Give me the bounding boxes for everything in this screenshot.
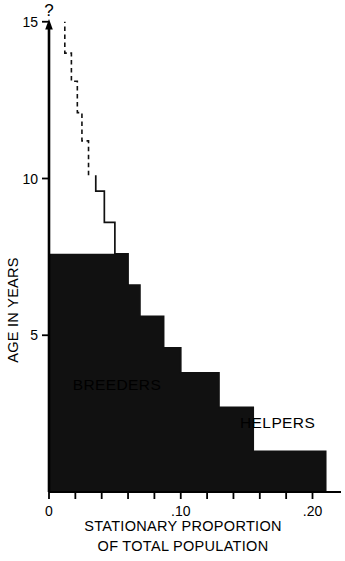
series-label-helpers: HELPERS: [240, 414, 315, 431]
series-label-breeders: BREEDERS: [73, 376, 161, 393]
y-axis-tick-label: 15: [22, 14, 38, 30]
y-axis-tick-label: 5: [30, 327, 38, 343]
x-axis-tick-label: 0: [45, 503, 53, 519]
uncertainty-question-mark: ?: [44, 1, 53, 20]
y-axis-tick-label: 10: [22, 171, 38, 187]
chart-figure: 51015 0.10.20 ? BREEDERSHELPERS STATIONA…: [0, 0, 345, 561]
x-axis-title-line2: OF TOTAL POPULATION: [98, 538, 269, 554]
x-axis-tick-label: .10: [171, 503, 191, 519]
y-axis-title: AGE IN YEARS: [5, 257, 21, 363]
x-axis-title-line1: STATIONARY PROPORTION: [84, 518, 282, 534]
population-age-structure-chart: 51015 0.10.20 ? BREEDERSHELPERS STATIONA…: [0, 0, 345, 561]
x-axis-tick-label: .20: [303, 503, 323, 519]
